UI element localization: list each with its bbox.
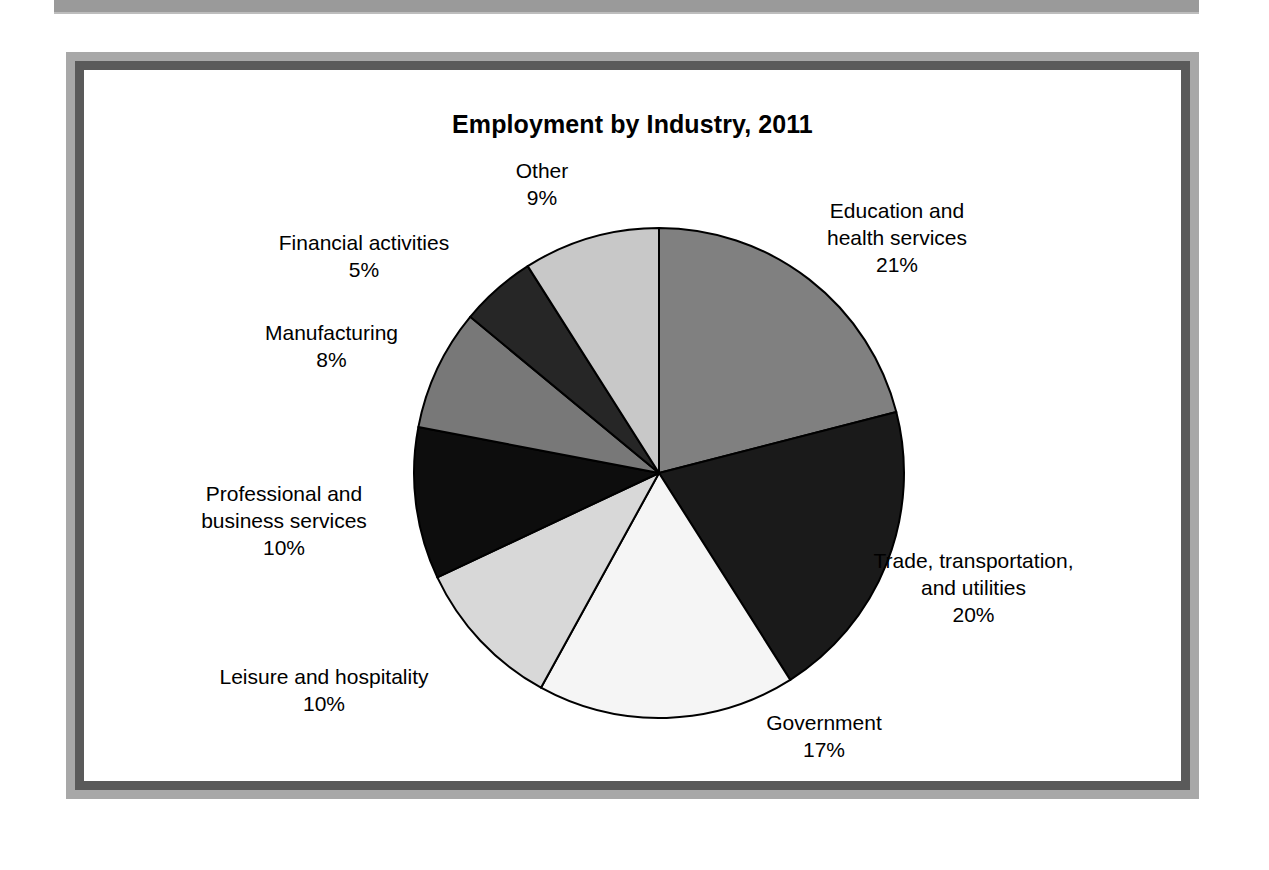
pie-label-professional-percent: 10% xyxy=(144,535,424,562)
pie-label-leisure-name: Leisure and hospitality xyxy=(220,665,429,688)
pie-label-professional-line-1: Professional and xyxy=(206,482,362,505)
pie-label-leisure-and-hospitality: Leisure and hospitality 10% xyxy=(179,664,469,718)
pie-label-financial-percent: 5% xyxy=(219,257,509,284)
pie-label-professional-line-2: business services xyxy=(201,509,367,532)
pie-label-financial-name: Financial activities xyxy=(279,231,449,254)
pie-label-education-and-health-services: Education and health services 21% xyxy=(782,198,1012,279)
pie-slice-group xyxy=(414,228,904,718)
pie-label-manufacturing: Manufacturing 8% xyxy=(194,320,469,374)
pie-label-education-line-2: health services xyxy=(827,226,967,249)
pie-label-manufacturing-percent: 8% xyxy=(194,347,469,374)
pie-label-trade-line-2: and utilities xyxy=(921,576,1026,599)
pie-label-education-percent: 21% xyxy=(782,252,1012,279)
scan-artifact-strip xyxy=(54,0,1199,14)
pie-label-government-percent: 17% xyxy=(704,737,944,764)
chart-title: Employment by Industry, 2011 xyxy=(84,110,1181,139)
pie-label-trade-percent: 20% xyxy=(826,602,1121,629)
pie-label-government: Government 17% xyxy=(704,710,944,764)
pie-label-other-name: Other xyxy=(516,159,569,182)
pie-label-trade-transportation-and-utilities: Trade, transportation, and utilities 20% xyxy=(826,548,1121,629)
pie-label-other-percent: 9% xyxy=(467,185,617,212)
pie-chart-svg xyxy=(404,200,914,760)
pie-label-manufacturing-name: Manufacturing xyxy=(265,321,398,344)
pie-label-education-line-1: Education and xyxy=(830,199,964,222)
pie-label-professional-and-business-services: Professional and business services 10% xyxy=(144,481,424,562)
pie-label-trade-line-1: Trade, transportation, xyxy=(874,549,1074,572)
chart-canvas: Employment by Industry, 2011 Other 9% Ed… xyxy=(84,70,1181,781)
pie-label-government-name: Government xyxy=(766,711,882,734)
pie-label-other: Other 9% xyxy=(467,158,617,212)
pie-chart xyxy=(404,200,914,760)
chart-frame-outer-border: Employment by Industry, 2011 Other 9% Ed… xyxy=(66,52,1199,799)
pie-label-financial-activities: Financial activities 5% xyxy=(219,230,509,284)
pie-label-leisure-percent: 10% xyxy=(179,691,469,718)
chart-frame-inner-border: Employment by Industry, 2011 Other 9% Ed… xyxy=(75,61,1190,790)
